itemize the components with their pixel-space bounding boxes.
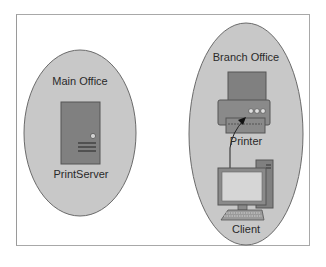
server-tower-icon	[61, 102, 100, 164]
main-office-label: Main Office	[52, 75, 107, 87]
client-label: Client	[232, 223, 260, 235]
diagram-canvas	[0, 0, 326, 267]
branch-office-label: Branch Office	[213, 51, 279, 63]
printer-label: Printer	[230, 135, 262, 147]
printserver-label: PrintServer	[53, 168, 108, 180]
